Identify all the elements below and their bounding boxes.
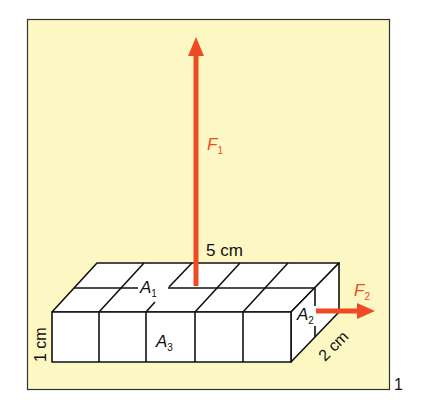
figure-number: 1 [394,376,403,393]
length-label: 5 cm [206,241,243,260]
diagram-canvas: F1 F2 5 cm A1 A2 A3 1 cm 2 cm 1 [0,0,422,417]
block-front-face [52,312,291,362]
height-label: 1 cm [32,327,49,362]
